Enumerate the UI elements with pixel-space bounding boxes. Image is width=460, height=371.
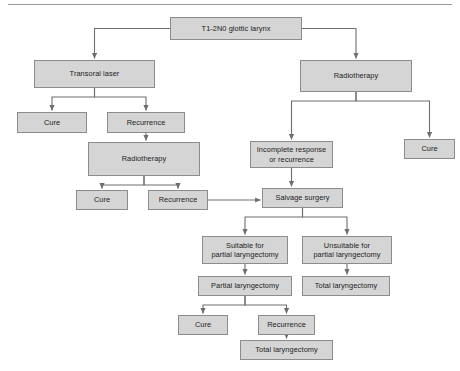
- node-label: Partial laryngectomy: [211, 281, 279, 290]
- node-recurrence_l2: Recurrence: [148, 190, 208, 210]
- node-total_laryngectomy_1: Total laryngectomy: [302, 276, 390, 296]
- top-horizontal-rule: [8, 4, 452, 5]
- node-label: Incomplete responseor recurrence: [257, 145, 327, 164]
- node-label: Total laryngectomy: [315, 281, 378, 290]
- node-cure_b: Cure: [178, 315, 228, 335]
- edge-partial_laryngectomy-to-cure_b: [203, 296, 245, 314]
- edge-rt_left-to-recurrence_l2: [144, 176, 178, 189]
- node-cure_l1: Cure: [17, 112, 87, 133]
- node-cure_r1: Cure: [404, 139, 455, 159]
- node-label: Radiotherapy: [122, 154, 167, 163]
- node-label: Cure: [195, 320, 211, 329]
- node-label: Radiotherapy: [334, 71, 379, 80]
- node-label: Unsuitable forpartial laryngectomy: [313, 241, 380, 260]
- flowchart-canvas: T1-2N0 glottic larynxTransoral laserRadi…: [0, 0, 460, 371]
- edge-salvage_surgery-to-suitable_partial: [245, 208, 303, 235]
- edge-root-to-transoral_laser: [95, 29, 171, 59]
- edge-rt_left-to-cure_l2: [102, 176, 144, 189]
- node-label: Transoral laser: [70, 69, 120, 78]
- node-label: Suitable forpartial laryngectomy: [211, 241, 278, 260]
- node-incomplete_response: Incomplete responseor recurrence: [250, 141, 333, 168]
- node-label: Cure: [94, 195, 110, 204]
- node-cure_l2: Cure: [76, 190, 128, 210]
- edge-partial_laryngectomy-to-recurrence_b: [245, 296, 287, 314]
- node-suitable_partial: Suitable forpartial laryngectomy: [202, 236, 288, 264]
- node-label: Recurrence: [159, 195, 198, 204]
- edge-transoral_laser-to-recurrence_l1: [95, 88, 147, 111]
- node-label: Cure: [421, 144, 437, 153]
- edge-rt_right-to-incomplete_response: [292, 92, 357, 140]
- node-label: Recurrence: [127, 118, 166, 127]
- node-recurrence_l1: Recurrence: [107, 112, 185, 133]
- node-root: T1-2N0 glottic larynx: [170, 17, 302, 40]
- node-label: Recurrence: [267, 320, 306, 329]
- node-recurrence_b: Recurrence: [258, 315, 315, 335]
- node-label: T1-2N0 glottic larynx: [202, 24, 271, 33]
- node-label: Cure: [44, 118, 60, 127]
- node-total_laryngectomy_2: Total laryngectomy: [240, 340, 333, 360]
- edge-root-to-rt_right: [302, 29, 356, 59]
- edge-salvage_surgery-to-unsuitable_partial: [303, 208, 348, 235]
- node-partial_laryngectomy: Partial laryngectomy: [198, 276, 292, 296]
- node-rt_right: Radiotherapy: [300, 60, 412, 92]
- connector-layer: [0, 0, 460, 371]
- node-label: Total laryngectomy: [255, 345, 318, 354]
- node-unsuitable_partial: Unsuitable forpartial laryngectomy: [302, 236, 392, 264]
- edge-rt_right-to-cure_r1: [356, 92, 430, 138]
- edge-transoral_laser-to-cure_l1: [52, 88, 95, 111]
- node-rt_left: Radiotherapy: [88, 142, 200, 176]
- node-label: Salvage surgery: [275, 193, 329, 202]
- node-transoral_laser: Transoral laser: [34, 60, 155, 88]
- node-salvage_surgery: Salvage surgery: [262, 188, 343, 208]
